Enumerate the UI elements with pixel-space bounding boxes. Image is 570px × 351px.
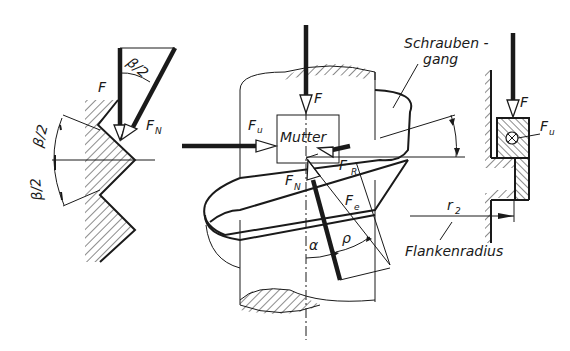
label-thread-line-bottom: gang: [423, 51, 458, 67]
label-r2: r: [447, 197, 454, 213]
label-fe: F: [345, 192, 354, 208]
label-fu: F: [248, 117, 257, 133]
thread-band-outer: [205, 178, 240, 205]
circumferential-force-arrowhead: [256, 140, 276, 152]
reaction-force-arrowhead: [318, 147, 333, 157]
force-f-arrowhead: [300, 95, 312, 113]
thread-profile-detail: F F N β/2 β/2 β/2: [27, 48, 175, 262]
angle-arc-alpha: [306, 254, 333, 258]
flank-radius-leader: [440, 222, 452, 240]
label-fr-sub: R: [351, 167, 357, 177]
screw-nut-detail: Mutter F F u -F R F N F e: [182, 25, 489, 340]
label-alpha: α: [309, 237, 319, 253]
label-r2-sub: 2: [455, 206, 461, 216]
label-thread-line-top: Schrauben -: [404, 35, 489, 51]
force-f-arrowhead: [507, 100, 519, 117]
label-fn-sub: N: [155, 126, 162, 136]
label-rho: ρ: [342, 230, 351, 246]
label-fe-sub: e: [354, 202, 360, 212]
label-flank-radius: Flankenradius: [405, 243, 503, 259]
label-f: F: [314, 90, 323, 106]
label-fu: F: [540, 118, 549, 134]
label-nut: Mutter: [280, 129, 328, 145]
label-fu-sub: u: [257, 125, 263, 135]
label-f: F: [520, 94, 529, 110]
label-fr: -F: [334, 157, 348, 173]
normal-force-line: [313, 180, 340, 280]
label-fn: F: [146, 117, 155, 133]
helix-angle-line: [380, 115, 455, 138]
label-half-angle-upper: β/2: [29, 123, 51, 150]
reaction-force-line: [332, 146, 350, 150]
label-fn-sub: N: [294, 182, 301, 192]
label-fu-sub: u: [549, 127, 555, 137]
label-fn: F: [285, 172, 294, 188]
label-half-angle-top: β/2: [123, 53, 151, 80]
screw-thread-force-diagram: F F N β/2 β/2 β/2 Mutter: [0, 0, 570, 351]
label-f: F: [98, 79, 107, 95]
thread-leader-line: [393, 64, 418, 108]
label-half-angle-lower: β/2: [27, 177, 45, 202]
